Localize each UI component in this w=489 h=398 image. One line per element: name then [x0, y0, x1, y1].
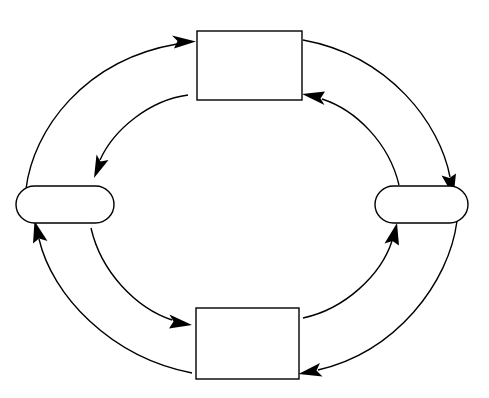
diagram-canvas: [0, 0, 489, 398]
arc-inner-bottom-to-right-line: [303, 241, 392, 318]
cycle-diagram: [0, 0, 489, 398]
arc-inner-left-to-bottom[interactable]: [91, 228, 192, 329]
arc-outer-left-to-top[interactable]: [26, 36, 196, 190]
node-top[interactable]: [197, 31, 302, 100]
inner-ring-group: [91, 92, 399, 329]
arc-inner-left-to-bottom-line: [91, 228, 172, 320]
node-right-shape: [375, 186, 468, 223]
arc-outer-top-to-right-line: [303, 40, 450, 177]
node-top-shape: [197, 31, 302, 100]
arc-inner-bottom-to-right[interactable]: [303, 223, 399, 318]
arrowhead-inner-left-to-bottom: [169, 315, 192, 329]
arc-outer-right-to-bottom[interactable]: [299, 221, 458, 377]
arc-outer-bottom-to-left[interactable]: [33, 221, 192, 373]
node-left[interactable]: [16, 186, 114, 223]
node-right[interactable]: [375, 186, 468, 223]
arc-outer-bottom-to-left-line: [39, 239, 192, 373]
arc-inner-top-to-left-line: [100, 95, 188, 160]
arrowhead-outer-left-to-top: [172, 36, 196, 49]
arrowhead-inner-right-to-top: [302, 92, 325, 106]
node-bottom-shape: [196, 308, 299, 379]
arrowhead-outer-bottom-to-left: [33, 221, 48, 244]
arc-inner-top-to-left[interactable]: [94, 95, 188, 178]
arc-outer-top-to-right[interactable]: [303, 40, 456, 196]
node-left-shape: [16, 186, 114, 223]
arc-outer-right-to-bottom-line: [318, 221, 457, 370]
arc-inner-right-to-top[interactable]: [302, 92, 399, 186]
node-bottom[interactable]: [196, 308, 299, 379]
arc-inner-right-to-top-line: [322, 99, 399, 185]
